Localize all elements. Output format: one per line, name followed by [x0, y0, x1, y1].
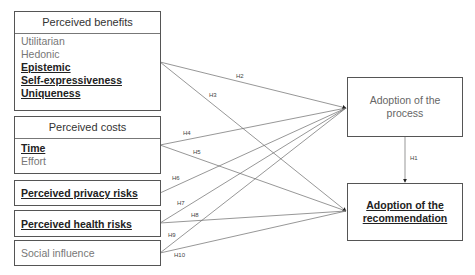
cost-effort: Effort [21, 155, 160, 168]
adoption-recommendation-label: Adoption of the recommendation [360, 199, 450, 225]
arrow-h4 [160, 108, 346, 145]
perceived-privacy-risks-box: Perceived privacy risks [14, 180, 161, 206]
label-h10: H10 [174, 252, 185, 258]
benefit-uniqueness: Uniqueness [21, 87, 160, 100]
label-h8: H8 [191, 212, 199, 218]
benefit-hedonic: Hedonic [21, 48, 160, 61]
label-h3: H3 [209, 92, 217, 98]
label-h2: H2 [236, 73, 244, 79]
benefit-epistemic: Epistemic [21, 61, 160, 74]
arrow-h2 [160, 62, 346, 108]
arrow-h5 [160, 145, 346, 211]
benefit-utilitarian: Utilitarian [21, 35, 160, 48]
label-h7: H7 [177, 200, 185, 206]
cost-time: Time [21, 142, 160, 155]
perceived-costs-box: Perceived costs Time Effort [14, 116, 161, 174]
perceived-costs-title: Perceived costs [15, 117, 160, 139]
adoption-process-box: Adoption of the process [347, 77, 463, 137]
perceived-privacy-risks-label: Perceived privacy risks [21, 187, 138, 199]
perceived-benefits-title: Perceived benefits [15, 12, 160, 34]
benefit-self-expressiveness: Self-expressiveness [21, 74, 160, 87]
perceived-health-risks-label: Perceived health risks [21, 218, 132, 230]
adoption-recommendation-box: Adoption of the recommendation [347, 183, 463, 241]
label-h9: H9 [168, 232, 176, 238]
social-influence-box: Social influence [14, 240, 161, 266]
label-h5: H5 [193, 149, 201, 155]
social-influence-label: Social influence [21, 247, 95, 259]
label-h6: H6 [172, 175, 180, 181]
arrow-h3 [160, 62, 346, 211]
perceived-health-risks-box: Perceived health risks [14, 210, 161, 237]
label-h4: H4 [183, 130, 191, 136]
adoption-process-label: Adoption of the process [365, 94, 445, 120]
perceived-benefits-box: Perceived benefits Utilitarian Hedonic E… [14, 11, 161, 111]
arrow-h7 [160, 108, 346, 223]
label-h1: H1 [410, 155, 418, 161]
